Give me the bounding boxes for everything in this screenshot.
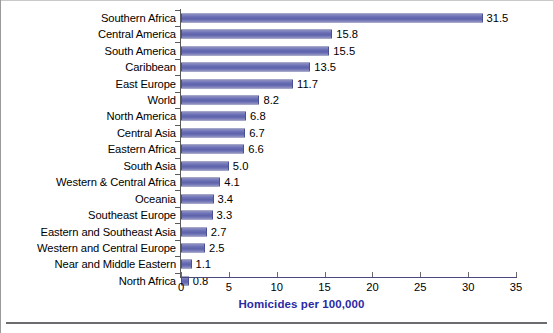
chart-bar — [181, 79, 293, 88]
chart-bar — [181, 46, 329, 55]
x-axis-tick-label: 25 — [414, 281, 426, 294]
x-axis-tick — [277, 272, 278, 277]
x-axis-title: Homicides per 100,000 — [0, 298, 553, 310]
x-axis-tick — [181, 272, 182, 277]
y-axis-tick — [175, 207, 180, 208]
x-axis-tick — [468, 272, 469, 277]
chart-bar — [181, 260, 192, 269]
chart-bar — [181, 95, 259, 104]
category-label: Caribbean — [125, 61, 176, 74]
category-label: Southeast Europe — [88, 209, 176, 222]
x-axis-tick-label: 30 — [462, 281, 474, 294]
y-axis-tick — [175, 190, 180, 191]
chart-bar — [181, 227, 207, 236]
x-axis-title-text: Homicides per 100,000 — [238, 298, 364, 310]
bar-chart-figure: Southern Africa31.5Central America15.8So… — [0, 0, 553, 320]
chart-bar — [181, 178, 220, 187]
x-axis-tick — [372, 272, 373, 277]
x-axis-line — [181, 277, 517, 278]
x-axis-tick-label: 20 — [366, 281, 378, 294]
category-label: North Africa — [119, 274, 176, 287]
bar-value-label: 6.6 — [244, 143, 264, 156]
bar-value-label: 6.8 — [246, 110, 266, 123]
chart-bar — [181, 211, 213, 220]
bar-value-label: 8.2 — [259, 93, 279, 106]
bar-value-label: 15.8 — [332, 28, 358, 41]
chart-bar — [181, 112, 246, 121]
y-axis-tick — [175, 125, 180, 126]
category-label: World — [147, 93, 176, 106]
category-label: Southern Africa — [101, 11, 176, 24]
y-axis-line — [180, 9, 181, 278]
chart-bar-row: Near and Middle Eastern1.1 — [0, 256, 553, 272]
bar-value-label: 6.7 — [245, 126, 265, 139]
category-label: Oceania — [135, 192, 176, 205]
y-axis-tick — [175, 273, 180, 274]
chart-bar-row: Central Asia6.7 — [0, 125, 553, 141]
chart-bar-row: Eastern and Southeast Asia2.7 — [0, 223, 553, 239]
chart-bar-row: Oceania3.4 — [0, 190, 553, 206]
chart-bar-row: Caribbean13.5 — [0, 59, 553, 75]
y-axis-tick — [175, 256, 180, 257]
category-label: Western and Central Europe — [37, 242, 176, 255]
x-axis-tick — [325, 272, 326, 277]
chart-bar — [181, 30, 332, 39]
bar-value-label: 11.7 — [293, 77, 318, 90]
figure-bottom-rule — [6, 322, 547, 324]
y-axis-tick — [175, 223, 180, 224]
chart-bar — [181, 13, 483, 22]
x-axis-tick — [229, 272, 230, 277]
x-axis-tick-label: 5 — [226, 281, 232, 294]
bar-value-label: 3.3 — [213, 209, 233, 222]
y-axis-tick — [175, 141, 180, 142]
bar-value-label: 4.1 — [220, 176, 240, 189]
y-axis-tick — [175, 26, 180, 27]
y-axis-tick — [175, 75, 180, 76]
chart-bar-row: Western and Central Europe2.5 — [0, 240, 553, 256]
bar-value-label: 2.7 — [207, 225, 227, 238]
y-axis-tick — [175, 108, 180, 109]
category-label: North America — [106, 110, 176, 123]
y-axis-tick — [175, 92, 180, 93]
y-axis-tick — [175, 158, 180, 159]
category-label: East Europe — [116, 77, 176, 90]
y-axis-tick — [175, 240, 180, 241]
category-label: Eastern Africa — [108, 143, 176, 156]
chart-bar — [181, 63, 310, 72]
y-axis-tick — [175, 59, 180, 60]
chart-bar — [181, 194, 214, 203]
x-axis-tick — [420, 272, 421, 277]
y-axis-tick — [175, 42, 180, 43]
x-axis-tick-label: 0 — [178, 281, 184, 294]
bar-value-label: 31.5 — [483, 11, 509, 24]
category-label: Eastern and Southeast Asia — [41, 225, 176, 238]
y-axis-tick — [175, 10, 180, 11]
chart-bar-row: World8.2 — [0, 92, 553, 108]
chart-bar-row: South America15.5 — [0, 42, 553, 58]
category-label: South America — [105, 44, 176, 57]
x-axis-tick — [516, 272, 517, 277]
chart-bar — [181, 145, 244, 154]
category-label: Western & Central Africa — [56, 176, 176, 189]
chart-bar-row: Eastern Africa6.6 — [0, 141, 553, 157]
chart-bar-row: East Europe11.7 — [0, 75, 553, 91]
chart-bar — [181, 161, 229, 170]
bar-value-label: 1.1 — [192, 258, 212, 271]
bar-value-label: 3.4 — [214, 192, 234, 205]
bar-value-label: 15.5 — [329, 44, 355, 57]
chart-bar — [181, 244, 205, 253]
x-axis-tick-label: 15 — [318, 281, 330, 294]
category-label: South Asia — [124, 159, 177, 172]
chart-bar-row: South Asia5.0 — [0, 158, 553, 174]
bar-value-label: 13.5 — [310, 61, 336, 74]
x-axis-tick-label: 10 — [270, 281, 282, 294]
chart-bar-row: Central America15.8 — [0, 26, 553, 42]
bar-value-label: 5.0 — [229, 159, 249, 172]
bar-value-label: 2.5 — [205, 242, 225, 255]
chart-bar-row: North America6.8 — [0, 108, 553, 124]
category-label: Central Asia — [117, 126, 176, 139]
x-axis-tick-label: 35 — [510, 281, 522, 294]
chart-bar-row: Western & Central Africa4.1 — [0, 174, 553, 190]
category-label: Near and Middle Eastern — [55, 258, 176, 271]
chart-bar-row: Southeast Europe3.3 — [0, 207, 553, 223]
